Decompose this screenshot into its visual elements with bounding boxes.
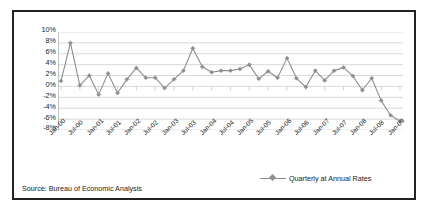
y-axis-tick: 10% — [42, 26, 56, 33]
data-point-marker — [97, 93, 101, 97]
legend-label-quarterly-at-annual-rates: Quarterly at Annual Rates — [289, 174, 371, 183]
chart-plot-wrapper: 10%8%6%4%2%0%-2%-4%-6%-8% Jan-00Jul-00Ja… — [14, 12, 414, 198]
data-point-marker — [238, 67, 242, 71]
y-axis-tick-labels: 10%8%6%4%2%0%-2%-4%-6%-8% — [20, 30, 56, 130]
y-axis-tick: 2% — [46, 70, 56, 77]
y-axis-tick: -6% — [43, 114, 56, 121]
y-axis-tick: -4% — [43, 103, 56, 110]
data-point-marker — [68, 41, 72, 45]
data-point-marker — [229, 69, 233, 73]
data-series-line — [61, 43, 400, 121]
y-axis-tick: 8% — [46, 37, 56, 44]
legend-line-swatch — [260, 178, 286, 179]
line-chart-svg — [58, 32, 403, 130]
data-point-marker — [285, 56, 289, 60]
x-axis-tick-labels: Jan-00Jul-00Jan-01Jul-01Jan-02Jul-02Jan-… — [58, 130, 403, 170]
y-axis-tick: -2% — [43, 92, 56, 99]
chart-plot-area — [58, 32, 403, 130]
legend-marker-icon — [269, 174, 276, 181]
data-point-marker — [191, 46, 195, 50]
data-point-marker — [59, 79, 63, 83]
data-point-marker — [219, 69, 223, 73]
source-note: Source: Bureau of Economic Analysis — [22, 184, 142, 193]
y-axis-tick: 0% — [46, 81, 56, 88]
chart-frame: 10%8%6%4%2%0%-2%-4%-6%-8% Jan-00Jul-00Ja… — [12, 10, 416, 200]
y-axis-tick: 4% — [46, 59, 56, 66]
data-point-marker — [106, 71, 110, 75]
y-axis-tick: 6% — [46, 48, 56, 55]
chart-legend: Quarterly at Annual Rates — [260, 172, 371, 184]
